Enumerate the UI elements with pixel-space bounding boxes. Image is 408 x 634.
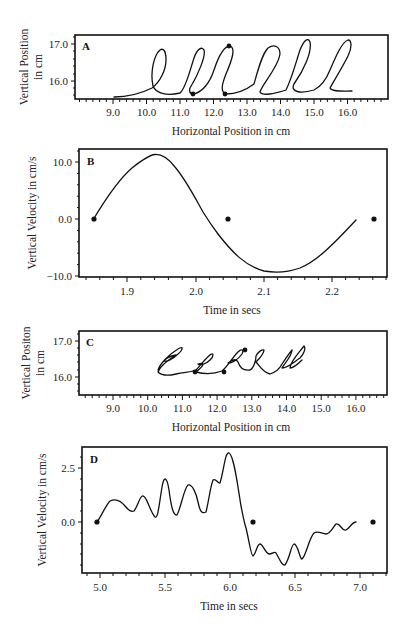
- panel-a-letter: A: [82, 40, 90, 52]
- panel-d-ytick: 0.0: [61, 516, 75, 528]
- panel-b-ytick: 0.0: [58, 213, 72, 225]
- panel-b-marker: [225, 216, 230, 221]
- panel-c-ylabel-line2: in cm: [34, 350, 46, 376]
- panel-a-ylabel-line2: in cm: [32, 54, 44, 80]
- panel-b-xlabel: Time in secs: [203, 304, 261, 316]
- panel-d-xlabel: Time in secs: [200, 600, 258, 612]
- panel-a-xtick: 13.0: [237, 106, 257, 118]
- panel-c-xtick: 14.0: [277, 402, 297, 414]
- panel-d-xtick: 5.5: [158, 581, 172, 593]
- panel-a-marker: [191, 92, 196, 97]
- panel-a-xlabel: Horizontal Position in cm: [172, 125, 291, 137]
- panel-d-xtick: 5.0: [93, 581, 107, 593]
- panel-a-xtick: 12.0: [204, 106, 224, 118]
- panel-a-xtick: 15.0: [304, 106, 324, 118]
- panel-c-xlabel: Horizontal Position in cm: [172, 421, 291, 433]
- panel-a-xtick: 10.0: [137, 106, 157, 118]
- panel-a-marker: [223, 92, 228, 97]
- panel-c-xtick: 10.0: [138, 402, 158, 414]
- panel-d-xtick: 7.0: [353, 581, 367, 593]
- panel-d-xtick: 6.5: [288, 581, 302, 593]
- panel-c-ytick: 16.0: [53, 371, 73, 383]
- panel-b-velocity-curve: [94, 154, 356, 272]
- panel-a-ytick-17: 17.0: [49, 38, 69, 50]
- panel-c-xtick: 9.0: [106, 402, 120, 414]
- panel-d-ylabel: Vertical Velocity in cm/s: [36, 453, 49, 567]
- panel-c-xtick: 16.0: [346, 402, 366, 414]
- panel-b-letter: B: [87, 155, 95, 167]
- panel-b: B 10.0 0.0 −10.0 1.9 2.0 2.1 2.2 Time in…: [26, 149, 387, 316]
- panel-c-xtick: 15.0: [312, 402, 332, 414]
- panel-a-marker: [227, 44, 232, 49]
- panel-c-xtick: 11.0: [173, 402, 192, 414]
- panel-b-xtick: 2.1: [257, 285, 271, 297]
- panel-c-trajectory: [158, 346, 305, 375]
- panel-b-marker: [91, 216, 96, 221]
- panel-a-ylabel-line1: Vertical Position: [18, 29, 30, 106]
- panel-d-marker: [250, 519, 255, 524]
- panel-d-letter: D: [90, 453, 98, 465]
- panel-c-frame: [79, 331, 387, 395]
- panel-d-marker: [94, 519, 99, 524]
- panel-b-xtick: 1.9: [120, 285, 134, 297]
- panel-a-xtick: 16.0: [338, 106, 358, 118]
- panel-d-xtick: 6.0: [223, 581, 237, 593]
- panel-d-ytick: 2.5: [61, 462, 75, 474]
- panel-c: C 17.0 16.0 9.0 10.0 11.0 12.0 13.0 14.0…: [20, 326, 387, 433]
- panel-b-marker: [371, 216, 376, 221]
- panel-c-letter: C: [86, 336, 94, 348]
- panel-c-marker: [222, 370, 227, 375]
- panel-a-xtick: 14.0: [271, 106, 291, 118]
- panel-a-xtick: 11.0: [171, 106, 190, 118]
- panel-a-xtick: 9.0: [106, 106, 120, 118]
- panel-b-frame: [79, 149, 387, 277]
- panel-a: A 17.0 16.0 9.0 10.0 11.0 12.0 13.0 14.0…: [18, 29, 388, 137]
- panel-b-ylabel: Vertical Velocity in cm/s: [26, 156, 39, 270]
- panel-c-ylabel-line1: Vertical Positon: [20, 326, 32, 399]
- panel-a-frame: [75, 35, 388, 99]
- panel-a-trajectory: [114, 40, 352, 97]
- panel-b-ytick: −10.0: [47, 270, 73, 282]
- panel-b-xtick: 2.2: [325, 285, 339, 297]
- panel-c-marker: [243, 348, 248, 353]
- panel-c-xtick: 13.0: [242, 402, 262, 414]
- panel-b-ytick: 10.0: [53, 156, 73, 168]
- panel-d: D 2.5 0.0 5.0 5.5 6.0 6.5 7.0 Time in se…: [36, 447, 387, 612]
- panel-c-xtick: 12.0: [207, 402, 227, 414]
- panel-b-xtick: 2.0: [189, 285, 203, 297]
- figure: A 17.0 16.0 9.0 10.0 11.0 12.0 13.0 14.0…: [0, 0, 408, 634]
- panel-a-ytick-16: 16.0: [49, 75, 69, 87]
- panel-d-marker: [370, 519, 375, 524]
- panel-c-ytick: 17.0: [53, 335, 73, 347]
- panel-d-velocity-curve: [97, 453, 356, 565]
- panel-c-marker: [193, 370, 198, 375]
